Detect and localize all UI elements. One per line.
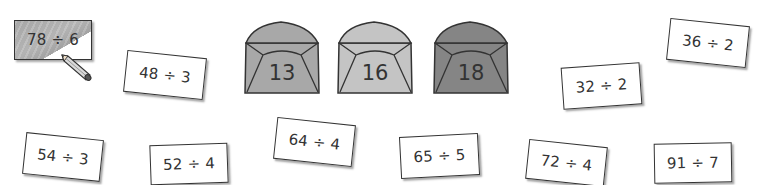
card-expression: 91 ÷ 7 xyxy=(667,154,719,173)
envelope[interactable]: 16 xyxy=(336,21,414,95)
card-expression: 52 ÷ 4 xyxy=(163,154,216,174)
envelope-label: 13 xyxy=(243,61,321,85)
division-card[interactable]: 54 ÷ 3 xyxy=(22,132,104,182)
pencil-icon xyxy=(60,53,94,83)
card-expression: 32 ÷ 2 xyxy=(575,75,628,97)
card-expression: 64 ÷ 4 xyxy=(288,130,342,153)
envelope-label: 16 xyxy=(336,61,414,85)
envelope-label: 18 xyxy=(432,61,510,85)
card-expression: 65 ÷ 5 xyxy=(413,146,466,167)
division-card[interactable]: 36 ÷ 2 xyxy=(666,18,750,68)
envelope[interactable]: 13 xyxy=(243,21,321,95)
division-card[interactable]: 52 ÷ 4 xyxy=(149,143,228,185)
card-expression: 72 ÷ 4 xyxy=(540,151,594,174)
division-card[interactable]: 48 ÷ 3 xyxy=(123,50,207,100)
card-expression: 54 ÷ 3 xyxy=(36,145,90,168)
division-card[interactable]: 64 ÷ 4 xyxy=(273,117,356,167)
division-card[interactable]: 72 ÷ 4 xyxy=(525,139,608,185)
card-expression: 48 ÷ 3 xyxy=(138,63,192,86)
division-card[interactable]: 91 ÷ 7 xyxy=(654,142,733,183)
card-expression: 36 ÷ 2 xyxy=(681,31,735,54)
card-expression: 78 ÷ 6 xyxy=(27,31,79,49)
division-card[interactable]: 32 ÷ 2 xyxy=(561,62,643,109)
envelope[interactable]: 18 xyxy=(432,21,510,95)
division-card[interactable]: 65 ÷ 5 xyxy=(399,133,480,179)
